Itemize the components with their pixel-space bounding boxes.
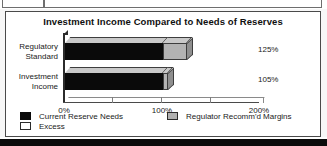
legend-label-regulator-margins: Regulator Recomm'd Margins	[186, 112, 292, 121]
legend-swatch-black	[20, 112, 31, 120]
bar-side-face	[168, 68, 174, 90]
legend-swatch-gray	[167, 112, 178, 120]
bar-segment-current-reserve-needs	[65, 73, 163, 90]
x-tick-100	[161, 97, 162, 103]
data-label-investment-income: 105%	[258, 75, 278, 84]
bottom-black-band	[0, 139, 327, 146]
legend-label-current-reserve-needs: Current Reserve Needs	[39, 112, 123, 121]
category-label-regulatory-standard: Regulatory Standard	[6, 42, 58, 61]
table-cell-right	[44, 0, 322, 8]
table-cell-left	[2, 0, 44, 8]
data-label-regulatory-standard: 125%	[258, 45, 278, 54]
legend-swatch-white	[20, 122, 31, 130]
x-axis-top-edge	[68, 97, 265, 98]
legend-label-excess: Excess	[39, 122, 65, 131]
plot-area: Regulatory Standard Investment Income	[6, 30, 322, 108]
chart-container: Investment Income Compared to Needs of R…	[5, 11, 321, 137]
screenshot-root: Investment Income Compared to Needs of R…	[0, 0, 327, 146]
chart-title: Investment Income Compared to Needs of R…	[6, 16, 320, 27]
x-tick-50	[112, 97, 113, 103]
document-table-strip	[0, 0, 327, 9]
chart-legend: Current Reserve Needs Excess Regulator R…	[6, 111, 322, 135]
x-tick-150	[210, 97, 211, 103]
bar-segment-current-reserve-needs	[65, 43, 163, 60]
category-label-investment-income: Investment Income	[6, 72, 58, 91]
bar-segment-regulator-margins	[163, 43, 187, 60]
bar-side-face	[187, 38, 193, 60]
